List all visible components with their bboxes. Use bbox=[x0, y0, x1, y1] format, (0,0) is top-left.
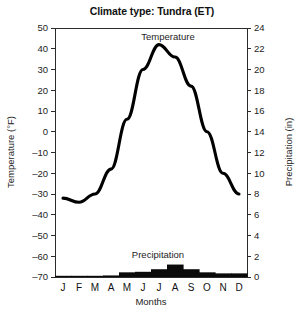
y-tick-label: 30 bbox=[37, 64, 48, 75]
y2-tick-label: 24 bbox=[254, 22, 265, 33]
month-label: J bbox=[141, 282, 146, 293]
y-tick-label: 50 bbox=[37, 22, 48, 33]
temperature-curve bbox=[63, 45, 239, 203]
y2-tick-label: 22 bbox=[254, 43, 265, 54]
precipitation-bar bbox=[135, 272, 152, 277]
month-label: A bbox=[108, 282, 115, 293]
month-label: M bbox=[91, 282, 99, 293]
y2-tick-label: 20 bbox=[254, 64, 265, 75]
y2-tick-label: 2 bbox=[254, 251, 259, 262]
precipitation-bar bbox=[103, 275, 120, 277]
plot-frame bbox=[55, 28, 247, 277]
precipitation-bar bbox=[151, 269, 168, 277]
month-label: F bbox=[76, 282, 82, 293]
month-label: S bbox=[188, 282, 195, 293]
y-tick-label: –10 bbox=[32, 147, 48, 158]
temperature-line bbox=[63, 45, 239, 203]
precipitation-bar bbox=[55, 276, 72, 277]
precipitation-bar bbox=[231, 273, 248, 277]
month-axis-labels: JFMAMJJASOND bbox=[61, 282, 243, 293]
y-tick-label: –20 bbox=[32, 168, 48, 179]
precipitation-bar bbox=[87, 276, 104, 277]
month-label: J bbox=[157, 282, 162, 293]
precipitation-bar bbox=[199, 272, 216, 277]
month-label: A bbox=[172, 282, 179, 293]
y-tick-label: 40 bbox=[37, 43, 48, 54]
precipitation-bar bbox=[167, 265, 184, 277]
y2-tick-label: 4 bbox=[254, 230, 259, 241]
y-tick-label: –60 bbox=[32, 251, 48, 262]
y-tick-label: 20 bbox=[37, 85, 48, 96]
precipitation-annotation: Precipitation bbox=[132, 249, 184, 260]
climate-chart-figure: Climate type: Tundra (ET) 50403020100–10… bbox=[0, 0, 304, 318]
precipitation-bars bbox=[55, 265, 248, 277]
month-label: N bbox=[219, 282, 226, 293]
precipitation-bar bbox=[119, 272, 136, 277]
y2-tick-label: 6 bbox=[254, 209, 259, 220]
precipitation-bar bbox=[71, 276, 88, 277]
month-label: J bbox=[61, 282, 66, 293]
month-label: O bbox=[203, 282, 211, 293]
y2-tick-label: 8 bbox=[254, 188, 259, 199]
y2-tick-label: 18 bbox=[254, 85, 265, 96]
y-tick-label: –40 bbox=[32, 209, 48, 220]
left-axis-ticks: 50403020100–10–20–30–40–50–60–70 bbox=[32, 22, 55, 282]
precipitation-bar bbox=[183, 269, 200, 277]
month-label: M bbox=[123, 282, 131, 293]
precipitation-bar bbox=[215, 273, 232, 277]
y2-tick-label: 16 bbox=[254, 105, 265, 116]
y2-axis-title: Precipitation (in) bbox=[283, 118, 294, 187]
y-tick-label: 0 bbox=[43, 126, 48, 137]
right-axis-ticks: 242220181614121086420 bbox=[247, 22, 265, 282]
y-tick-label: 10 bbox=[37, 105, 48, 116]
climate-chart-plot: 50403020100–10–20–30–40–50–60–70 2422201… bbox=[0, 0, 304, 318]
temperature-annotation: Temperature bbox=[141, 31, 194, 42]
y2-tick-label: 0 bbox=[254, 271, 259, 282]
y2-tick-label: 12 bbox=[254, 147, 265, 158]
y-tick-label: –50 bbox=[32, 230, 48, 241]
y-tick-label: –30 bbox=[32, 188, 48, 199]
y2-tick-label: 14 bbox=[254, 126, 265, 137]
y-tick-label: –70 bbox=[32, 271, 48, 282]
month-label: D bbox=[235, 282, 242, 293]
y-axis-title: Temperature (°F) bbox=[5, 116, 16, 188]
y2-tick-label: 10 bbox=[254, 168, 265, 179]
x-axis-title: Months bbox=[135, 296, 166, 307]
